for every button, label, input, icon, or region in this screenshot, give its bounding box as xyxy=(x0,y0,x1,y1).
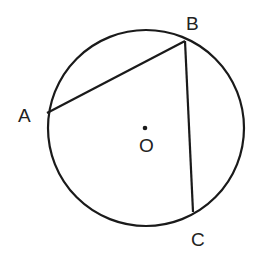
chord-bc xyxy=(185,41,193,212)
chord-ab xyxy=(47,41,185,113)
label-b: B xyxy=(186,13,199,34)
center-dot xyxy=(143,126,148,131)
label-a: A xyxy=(18,105,31,126)
label-c: C xyxy=(191,229,205,250)
label-o: O xyxy=(139,135,154,156)
geometry-diagram: A B C O xyxy=(0,0,253,256)
